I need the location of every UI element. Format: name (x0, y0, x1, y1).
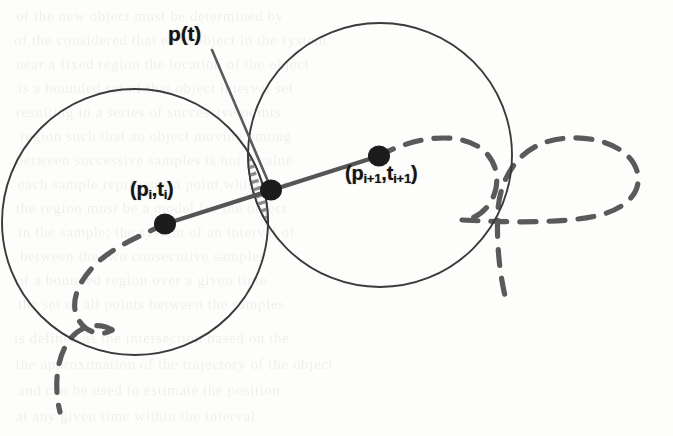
dashed-trajectory-left-tail (57, 326, 112, 412)
dot-trajectory-point (260, 180, 282, 201)
label-sample-i1-mid: ,t (381, 162, 393, 184)
hatch-line (214, 239, 347, 281)
figure-container: of the new object must be determined byo… (0, 0, 673, 436)
dashed-trajectory-right-loop (462, 138, 638, 300)
lens-hatching-group (169, 96, 348, 281)
label-sample-i-plus-1: (pi+1,ti+1) (345, 162, 417, 186)
pt-leader-line (212, 50, 270, 186)
label-pt: p(t) (168, 22, 201, 46)
dot-sample-i (154, 214, 176, 235)
hatch-line (203, 203, 336, 245)
hatch-line (209, 224, 342, 266)
dashed-trajectory-left (75, 224, 165, 333)
label-sample-i1-open: (p (345, 162, 363, 184)
label-sample-i-mid: ,t (152, 178, 164, 200)
hatch-line (207, 217, 340, 259)
diagram-canvas (0, 0, 673, 436)
circle-sample-i (2, 89, 268, 355)
label-sample-i: (pi,ti) (130, 178, 174, 202)
label-sample-i-close: ) (167, 178, 173, 200)
label-sample-i1-sub1: i+1 (363, 171, 381, 186)
hatch-line (180, 131, 313, 173)
label-sample-i1-sub2: i+1 (393, 171, 411, 186)
label-sample-i-open: (p (130, 178, 148, 200)
label-sample-i1-close: ) (411, 162, 417, 184)
